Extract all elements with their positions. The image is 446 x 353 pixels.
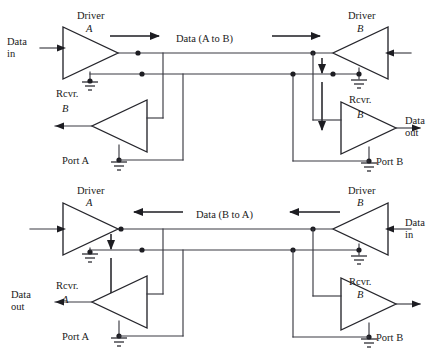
bottom-rcvr-right-designator: B [357,289,364,300]
driver-a-gnd-node [87,78,92,83]
top-rcvr-left-designator: B [62,103,69,114]
top-driver-b-title: Driver [348,10,376,21]
bottom-bus-label: Data (B to A) [196,209,253,221]
rcvr-left-output-arrowhead [55,123,64,130]
bottom-driver-b-gnd-node [356,247,361,252]
top-rcvr-right-designator: B [357,109,364,120]
bottom-bus-lower-node-left [139,247,144,252]
bottom-driver-b[interactable] [333,203,411,264]
bottom-rcvr-left-title: Rcvr. [56,280,78,291]
top-circuit: Driver A Data in Data (A to B) [7,10,425,171]
bottom-data-out-line2: out [11,301,25,312]
top-bus-lower-node-left [139,71,144,76]
bottom-driver-b-ground-symbol [351,256,367,264]
rcvr-right-triangle [341,102,396,154]
port-b-ground-symbol-bottom [361,339,377,347]
driver-a-triangle [63,27,118,79]
bottom-driver-b-designator: B [357,197,364,208]
port-a-ground-symbol-bottom [111,338,127,346]
bottom-driver-a-ground-symbol [82,254,98,262]
bottom-rcvr-right[interactable] [293,229,421,347]
port-b-ground-symbol-top [361,163,377,171]
top-rcvr-left-title: Rcvr. [56,88,78,99]
top-bus-label: Data (A to B) [176,33,233,45]
top-data-out-line1: Data [405,115,425,126]
top-rcvr-right[interactable] [290,53,421,171]
bottom-bus-node-left [118,226,123,231]
top-port-b-label: Port B [376,156,403,167]
figure-canvas: Driver A Data in Data (A to B) [0,0,446,353]
top-data-in-line1: Data [7,36,27,47]
top-data-in-line2: in [7,48,16,59]
port-a-ground-symbol-top [111,162,127,170]
top-bus-lower-node-right [330,71,335,76]
top-rcvr-right-title: Rcvr. [349,94,371,105]
top-bus-label-group: Data (A to B) [110,33,320,45]
bottom-driver-a[interactable] [30,203,118,262]
bottom-driver-b-title: Driver [348,185,376,196]
bottom-driver-a-designator: A [85,197,93,208]
top-port-a-label: Port A [62,155,90,166]
driver-b-ground-symbol [351,80,367,88]
bottom-data-out-line1: Data [11,289,31,300]
driver-b-triangle [333,27,388,79]
schematic-diagram: Driver A Data in Data (A to B) [0,0,446,353]
top-driver-a[interactable] [40,27,118,90]
top-driver-b-designator: B [357,23,364,34]
top-driver-a-title: Driver [77,10,105,21]
bottom-driver-a-triangle [63,203,118,255]
bottom-driver-b-triangle [333,203,388,255]
bottom-bus-label-group: Data (B to A) [134,209,340,221]
bottom-circuit: Driver A Data (B to A) [11,185,425,347]
bottom-driver-a-title: Driver [77,185,105,196]
bottom-rcvr-left-designator: A [61,294,69,305]
bottom-data-in-line1: Data [405,217,425,228]
top-data-out-line2: out [405,127,419,138]
top-bus-node-left [135,50,140,55]
top-driver-a-designator: A [85,23,93,34]
bottom-data-in-line2: in [405,229,414,240]
bottom-rcvr-right-title: Rcvr. [349,276,371,287]
driver-b-gnd-node [356,71,361,76]
bottom-rcvr-left-triangle [92,276,147,328]
rcvr-left-triangle [92,100,147,152]
top-driver-b[interactable] [333,27,411,88]
port-b-bus-junction-top [290,71,295,76]
bottom-rcvr-right-output-arrowhead [412,301,421,308]
bottom-port-a-label: Port A [62,331,90,342]
bottom-port-b-label: Port B [376,332,403,343]
